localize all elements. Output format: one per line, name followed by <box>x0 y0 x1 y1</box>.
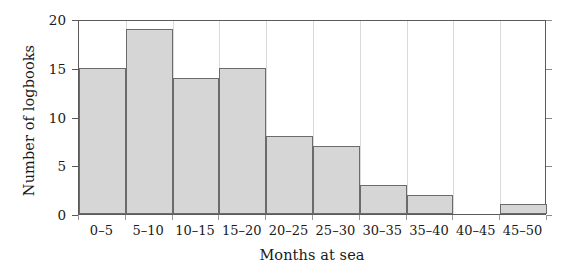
y-tick-mark <box>72 20 78 21</box>
bar <box>407 195 454 215</box>
bar <box>79 68 126 214</box>
histogram-figure: Number of logbooks 05101520 0–55–1010–15… <box>0 0 565 276</box>
x-tick-mark <box>125 215 126 220</box>
x-tick-mark <box>172 215 173 220</box>
x-tick-mark <box>265 215 266 220</box>
gridline-vertical <box>407 21 408 214</box>
x-axis-title: Months at sea <box>78 247 546 263</box>
y-tick-mark <box>72 118 78 119</box>
x-tick-mark <box>359 215 360 220</box>
y-tick-mark-right <box>546 118 552 119</box>
x-tick-mark <box>452 215 453 220</box>
y-tick-mark <box>72 166 78 167</box>
y-tick-label: 5 <box>6 160 66 174</box>
x-tick-mark <box>406 215 407 220</box>
y-tick-label: 20 <box>6 14 66 28</box>
bar <box>313 146 360 214</box>
gridline-vertical <box>453 21 454 214</box>
y-tick-mark-right <box>546 69 552 70</box>
y-tick-label: 0 <box>6 209 66 223</box>
y-tick-mark-right <box>546 20 552 21</box>
x-tick-mark <box>312 215 313 220</box>
bar <box>173 78 220 215</box>
x-tick-mark <box>499 215 500 220</box>
bar <box>126 29 173 214</box>
y-tick-label: 15 <box>6 63 66 77</box>
y-tick-mark-right <box>546 166 552 167</box>
bar <box>266 136 313 214</box>
plot-area <box>78 20 546 215</box>
y-tick-mark <box>72 69 78 70</box>
gridline-vertical <box>500 21 501 214</box>
x-tick-mark <box>218 215 219 220</box>
x-tick-mark <box>78 215 79 220</box>
y-tick-label: 10 <box>6 112 66 126</box>
x-tick-label: 45–50 <box>488 224 558 237</box>
plot-inner <box>79 21 545 214</box>
bar <box>219 68 266 214</box>
bar <box>360 185 407 214</box>
x-tick-mark <box>546 215 547 220</box>
bar <box>500 204 547 214</box>
